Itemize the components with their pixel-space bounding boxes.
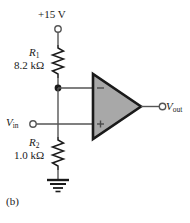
vin-terminal-node (30, 121, 36, 127)
resistor-r2-value-label: 1.0 kΩ (14, 150, 44, 161)
resistor-r2-symbol (53, 137, 64, 170)
resistor-r2-name-label: R2 (29, 137, 39, 149)
supply-voltage-label: +15 V (38, 9, 66, 20)
resistor-r1-value-label: 8.2 kΩ (14, 60, 44, 71)
figure-caption: (b) (6, 196, 19, 207)
schematic-canvas (0, 0, 190, 223)
resistor-r1-symbol (53, 45, 64, 78)
vin-label: Vin (6, 117, 19, 129)
resistor-r1-name-label: R1 (29, 47, 39, 59)
ground-symbol (47, 180, 69, 192)
vout-label: Vout (166, 101, 182, 113)
opamp-body (93, 74, 141, 139)
vout-terminal-node (159, 103, 165, 109)
supply-terminal-node (55, 26, 61, 32)
circuit-diagram: +15 V R1 8.2 kΩ R2 1.0 kΩ Vin Vout (b) (0, 0, 190, 223)
